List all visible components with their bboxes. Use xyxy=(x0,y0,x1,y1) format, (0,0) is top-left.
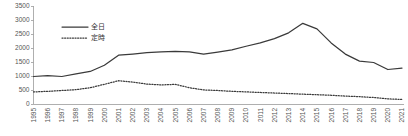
y-axis: 0500100015002000250030003500 xyxy=(15,2,33,107)
legend-label-2: 定時 xyxy=(91,33,105,42)
x-axis-tick-label: 1996 xyxy=(44,108,51,123)
x-axis-tick-label: 2000 xyxy=(101,108,108,123)
x-axis-tick-label: 2006 xyxy=(186,108,193,123)
x-axis-tick-label: 2004 xyxy=(157,108,164,123)
y-axis-tick-label: 2000 xyxy=(15,44,30,51)
x-axis-tick-label: 2013 xyxy=(285,108,292,123)
x-axis-tick-label: 2003 xyxy=(143,108,150,123)
y-axis-tick-label: 1500 xyxy=(15,58,30,65)
x-axis-tick-label: 2021 xyxy=(398,108,405,123)
x-axis-tick-label: 1998 xyxy=(72,108,79,123)
series-line-1 xyxy=(34,23,403,76)
x-axis-tick-label: 2008 xyxy=(214,108,221,123)
y-axis-tick-label: 2500 xyxy=(15,30,30,37)
plot-area xyxy=(34,23,403,99)
x-axis-tick-label: 2016 xyxy=(328,108,335,123)
x-axis-tick-label: 2009 xyxy=(228,108,235,123)
y-axis-tick-label: 500 xyxy=(19,86,30,93)
x-axis-tick-label: 2001 xyxy=(115,108,122,123)
chart-canvas: 0500100015002000250030003500 19951996199… xyxy=(0,0,408,136)
x-axis-tick-label: 2014 xyxy=(299,108,306,123)
y-axis-tick-label: 0 xyxy=(26,100,30,107)
x-axis-tick-label: 2002 xyxy=(129,108,136,123)
line-chart: 0500100015002000250030003500 19951996199… xyxy=(0,0,408,136)
x-axis-tick-label: 2010 xyxy=(242,108,249,123)
y-axis-tick-label: 1000 xyxy=(15,72,30,79)
x-axis-tick-label: 1995 xyxy=(30,108,37,123)
series-line-2 xyxy=(34,81,403,100)
y-axis-tick-label: 3500 xyxy=(15,2,30,9)
x-axis-tick-label: 2011 xyxy=(257,108,264,122)
x-axis-tick-label: 2015 xyxy=(313,108,320,123)
y-axis-tick-label: 3000 xyxy=(15,16,30,23)
x-axis-tick-label: 2005 xyxy=(172,108,179,123)
legend-label-1: 全日 xyxy=(91,22,105,31)
x-axis-tick-label: 1997 xyxy=(58,108,65,123)
x-axis-tick-label: 2007 xyxy=(200,108,207,123)
x-axis-tick-label: 2020 xyxy=(384,108,391,123)
chart-legend: 全日定時 xyxy=(62,22,105,42)
x-axis-tick-label: 2018 xyxy=(356,108,363,123)
x-axis-tick-label: 1999 xyxy=(87,108,94,123)
x-axis: 1995199619971998199920002001200220032004… xyxy=(30,105,406,123)
x-axis-tick-label: 2019 xyxy=(370,108,377,123)
x-axis-tick-label: 2012 xyxy=(271,108,278,123)
x-axis-tick-label: 2017 xyxy=(342,108,349,123)
